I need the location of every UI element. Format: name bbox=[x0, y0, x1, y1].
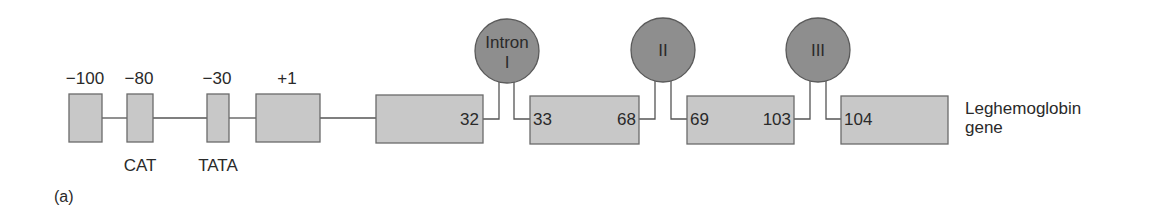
position-labels: −100 −80 −30 +1 bbox=[66, 69, 297, 88]
exon-3-end-number: 103 bbox=[763, 110, 791, 129]
transcription-start-box bbox=[256, 94, 320, 142]
exon-2-end-number: 68 bbox=[617, 110, 636, 129]
gene-label: Leghemoglobin gene bbox=[965, 99, 1081, 137]
position-label-minus100: −100 bbox=[66, 69, 104, 88]
intron-1-label-line2: I bbox=[505, 53, 510, 72]
tata-box bbox=[207, 94, 229, 142]
intron-2-label: II bbox=[658, 41, 667, 60]
figure-panel-label: (a) bbox=[54, 188, 74, 205]
exon-1-end-number: 32 bbox=[460, 110, 479, 129]
element-labels: CAT TATA bbox=[124, 156, 239, 175]
promoter-box-minus100 bbox=[69, 94, 102, 142]
position-label-plus1: +1 bbox=[277, 69, 296, 88]
position-label-minus30: −30 bbox=[203, 69, 232, 88]
position-label-minus80: −80 bbox=[125, 69, 154, 88]
intron-3-label: III bbox=[811, 41, 825, 60]
exon-4-start-number: 104 bbox=[844, 110, 872, 129]
gene-label-line2: gene bbox=[965, 118, 1003, 137]
intron-1-label-line1: Intron bbox=[485, 33, 528, 52]
cat-box bbox=[127, 94, 153, 142]
leghemoglobin-gene-diagram: −100 −80 −30 +1 CAT TATA 32 33 68 69 103… bbox=[0, 0, 1167, 215]
cat-label: CAT bbox=[124, 156, 157, 175]
gene-label-line1: Leghemoglobin bbox=[965, 99, 1081, 118]
tata-label: TATA bbox=[198, 156, 238, 175]
exon-2-start-number: 33 bbox=[533, 110, 552, 129]
exon-3-start-number: 69 bbox=[690, 110, 709, 129]
